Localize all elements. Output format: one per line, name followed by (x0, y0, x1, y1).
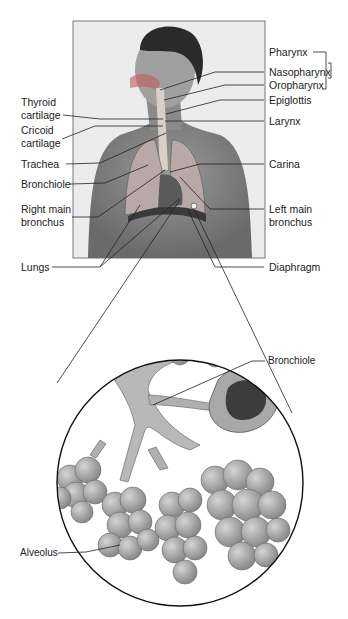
label-cricoid-2: cartilage (21, 137, 61, 149)
label-trachea: Trachea (21, 158, 59, 170)
label-thyroid-1: Thyroid (21, 96, 56, 108)
label-carina: Carina (269, 158, 300, 170)
label-bronchiole: Bronchiole (21, 178, 71, 190)
label-oropharynx: Oropharynx (269, 79, 324, 91)
label-pharynx: Pharynx (269, 46, 308, 58)
label-left-main-bronchus-1: Left main (269, 203, 312, 215)
alveoli-inset (49, 342, 303, 606)
label-nasopharynx: Nasopharynx (269, 66, 331, 78)
label-right-main-bronchus-2: bronchus (21, 216, 64, 228)
label-right-main-bronchus-1: Right main (21, 203, 71, 215)
label-cricoid-1: Cricoid (21, 124, 54, 136)
label-alveolus: Alveolus (20, 547, 58, 559)
label-lungs: Lungs (21, 261, 50, 273)
label-inset-bronchiole: Bronchiole (268, 355, 315, 367)
label-larynx: Larynx (269, 115, 301, 127)
label-epiglottis: Epiglottis (269, 94, 312, 106)
label-diaphragm: Diaphragm (269, 261, 320, 273)
label-left-main-bronchus-2: bronchus (269, 216, 312, 228)
label-thyroid-2: cartilage (21, 109, 61, 121)
respiratory-diagram (0, 0, 348, 619)
